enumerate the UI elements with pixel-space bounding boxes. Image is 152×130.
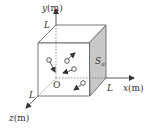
front-face	[38, 43, 90, 96]
origin-label: O	[53, 80, 60, 90]
z-axis-label: z(m)	[8, 113, 29, 123]
edge-label-z: L	[28, 90, 35, 100]
y-axis-label: y(m)	[41, 3, 63, 13]
edge-label-y: L	[43, 20, 50, 30]
cube-diagram: y(m) x(m) z(m) O L L L Sa	[0, 0, 152, 130]
x-axis-label: x(m)	[123, 83, 144, 93]
edge-label-x: L	[106, 83, 113, 93]
